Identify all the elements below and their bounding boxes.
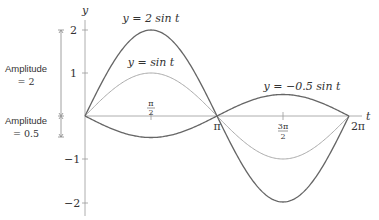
amplitude-0-5-line1: Amplitude bbox=[5, 115, 47, 126]
y-tick-label-2: 2 bbox=[70, 24, 77, 37]
label-2sin-t: y = 2 sin t bbox=[121, 12, 180, 25]
x-tick-label-2pi: 2π bbox=[351, 120, 365, 133]
x-tick-label-pi-half-num: π bbox=[148, 99, 153, 108]
amplitude-bracket bbox=[58, 30, 64, 137]
y-tick-label-m2: −2 bbox=[64, 197, 80, 210]
x-axis-label: t bbox=[366, 110, 371, 123]
x-tick-label-pi: π bbox=[213, 120, 220, 133]
amplitude-2-line1: Amplitude bbox=[5, 63, 47, 74]
label-sin-t: y = sin t bbox=[127, 56, 175, 69]
label-neg-0-5sin-t: y = −0.5 sin t bbox=[263, 80, 341, 93]
x-tick-label-pi-half-den: 2 bbox=[148, 108, 153, 117]
y-axis-label: y bbox=[81, 4, 89, 17]
x-tick-label-3pi-half-num: 3π bbox=[278, 122, 288, 131]
amplitude-0-5-line2: = 0.5 bbox=[13, 128, 39, 139]
chart: y t 2 1 −1 −2 π 2 π 3π 2 2π y = 2 sin t … bbox=[0, 0, 379, 220]
y-tick-label-m1: −1 bbox=[64, 153, 80, 166]
y-tick-label-1: 1 bbox=[70, 67, 77, 80]
amplitude-2-line2: = 2 bbox=[17, 76, 34, 87]
x-tick-label-3pi-half-den: 2 bbox=[280, 132, 285, 141]
